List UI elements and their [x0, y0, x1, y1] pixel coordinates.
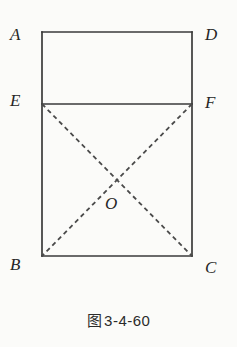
dashed-diagonals-group [42, 104, 192, 256]
rectangle-outline-group [42, 32, 192, 256]
figure-caption-cjk: 图 [87, 312, 105, 330]
vertex-label-E: E [10, 92, 20, 109]
figure-container: A D E F B C O 图3-4-60 [0, 0, 237, 347]
figure-caption: 图3-4-60 [0, 309, 237, 330]
vertex-label-F: F [205, 94, 215, 111]
vertex-label-B: B [10, 256, 20, 273]
vertex-label-C: C [205, 259, 216, 276]
vertex-label-D: D [205, 26, 217, 43]
vertex-label-A: A [10, 26, 20, 43]
geometry-diagram-canvas [0, 0, 237, 347]
vertex-label-O: O [105, 195, 117, 212]
figure-caption-number: 3-4-60 [104, 312, 150, 329]
